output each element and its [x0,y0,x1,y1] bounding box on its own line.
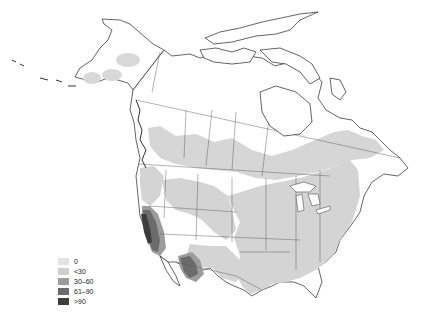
legend-item-0: 0 [58,257,93,266]
legend-label: 61–90 [74,287,93,296]
legend-label: 0 [74,257,78,266]
legend-swatch [58,298,69,305]
legend-swatch [58,258,69,265]
legend-label: 30–60 [74,277,93,286]
legend: 0 <30 30–60 61–90 >90 [58,257,93,307]
region-alaska-south-1 [83,72,101,84]
legend-item-61-90: 61–90 [58,287,93,296]
legend-swatch [58,268,69,275]
legend-label: <30 [74,267,86,276]
region-alaska-south-2 [102,69,122,81]
aleutian-islands [12,60,76,86]
legend-item-lt30: <30 [58,267,93,276]
legend-label: >90 [74,297,86,306]
region-alaska-interior [116,53,140,67]
legend-item-30-60: 30–60 [58,277,93,286]
legend-swatch [58,288,69,295]
legend-swatch [58,278,69,285]
legend-item-gt90: >90 [58,297,93,306]
